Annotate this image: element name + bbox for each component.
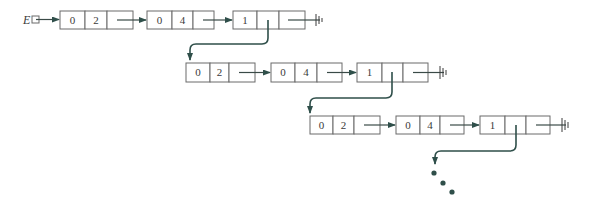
row3-node3: 1 (480, 116, 568, 134)
row3-node1: 0 2 (310, 116, 395, 134)
row2-node3: 1 (357, 63, 446, 82)
row3-node2: 0 4 (396, 116, 479, 134)
cell-value: 2 (93, 14, 99, 26)
row1-node1: 0 2 (60, 11, 146, 29)
cell-value: 0 (195, 66, 201, 78)
cell-value: 1 (367, 66, 373, 78)
head-label: E (22, 13, 31, 27)
cell-value: 0 (405, 119, 411, 131)
cell-value: 1 (242, 14, 248, 26)
cell-value: 1 (490, 119, 496, 131)
head-pointer: E (22, 13, 59, 27)
cell-value: 0 (70, 14, 76, 26)
row-3: 0 2 0 4 1 (310, 116, 568, 164)
row1-node2: 0 4 (147, 11, 232, 29)
cell-value: 2 (341, 119, 347, 131)
row2-node2: 0 4 (271, 63, 356, 82)
cell-value: 4 (303, 66, 309, 78)
cell-value: 0 (157, 14, 163, 26)
ellipsis-dots-icon (431, 170, 454, 194)
row1-node3: 1 (233, 11, 322, 29)
row2-node1: 0 2 (186, 63, 270, 82)
row-1: 0 2 0 4 1 (60, 11, 322, 60)
cell-value: 4 (180, 14, 186, 26)
cell-value: 0 (280, 66, 286, 78)
cell-value: 4 (427, 119, 433, 131)
linked-list-diagram: E 0 2 0 4 1 (0, 0, 591, 202)
cell-value: 0 (319, 119, 325, 131)
row-2: 0 2 0 4 1 (186, 63, 446, 113)
cell-value: 2 (217, 66, 223, 78)
